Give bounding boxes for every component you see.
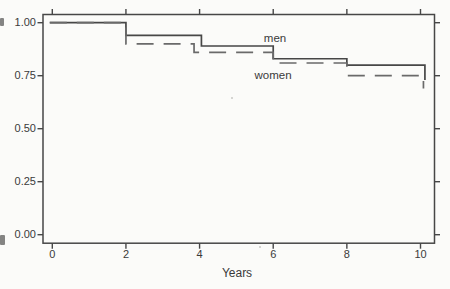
scan-speckle <box>259 246 261 248</box>
x-tick-label: 0 <box>41 248 63 261</box>
y-tick-label: 0.50 <box>8 122 36 135</box>
x-tick-label: 6 <box>262 248 284 261</box>
x-tick-label: 2 <box>115 248 137 261</box>
plot-box <box>43 15 435 244</box>
y-tick-label: 0.25 <box>8 175 36 188</box>
plot-area <box>0 0 450 289</box>
x-axis-title: Years <box>196 266 278 280</box>
survival-chart: Years 02468101.000.750.500.250.00menwome… <box>0 0 450 289</box>
x-tick-label: 8 <box>336 248 358 261</box>
x-tick-label: 10 <box>410 248 432 261</box>
men-curve <box>50 23 425 80</box>
scan-artifact <box>0 235 5 245</box>
series-label-men: men <box>243 32 307 45</box>
y-tick-label: 0.75 <box>8 69 36 82</box>
series-label-women: women <box>241 69 305 82</box>
x-tick-label: 4 <box>189 248 211 261</box>
scan-artifact <box>0 18 4 26</box>
women-curve <box>50 23 424 89</box>
y-tick-label: 0.00 <box>8 228 36 241</box>
scan-speckle <box>231 97 233 99</box>
y-tick-label: 1.00 <box>8 16 36 29</box>
